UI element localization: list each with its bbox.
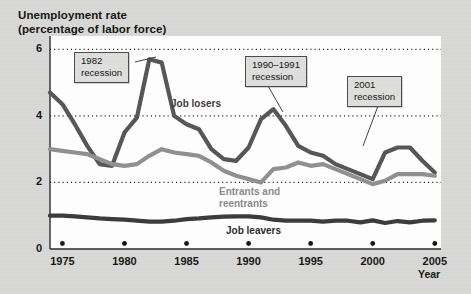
chart-svg	[0, 0, 471, 294]
y-tick-0: 0	[20, 242, 42, 254]
x-tick-1985: 1985	[157, 255, 217, 267]
x-tick-1975: 1975	[32, 255, 92, 267]
x-tick-1990: 1990	[219, 255, 279, 267]
x-tick-2005: 2005	[405, 255, 465, 267]
x-tick-2000: 2000	[343, 255, 403, 267]
unemployment-rate-figure: Unemployment rate (percentage of labor f…	[0, 0, 471, 294]
x-axis-tick-dots	[60, 241, 437, 246]
job-leavers-label: Job leavers	[226, 225, 281, 237]
y-tick-2: 2	[20, 175, 42, 187]
recession-2001: 2001 recession	[347, 76, 402, 107]
y-tick-4: 4	[20, 109, 42, 121]
x-tick-1980: 1980	[94, 255, 154, 267]
y-tick-6: 6	[20, 42, 42, 54]
x-axis-title: Year	[418, 268, 440, 280]
recession-1982: 1982 recession	[74, 52, 129, 83]
recession-1990-1991: 1990–1991 recession	[245, 56, 307, 87]
entrants-label: Entrants and reentrants	[219, 186, 280, 210]
x-tick-1995: 1995	[281, 255, 341, 267]
job-losers-label: Job losers	[171, 98, 221, 110]
